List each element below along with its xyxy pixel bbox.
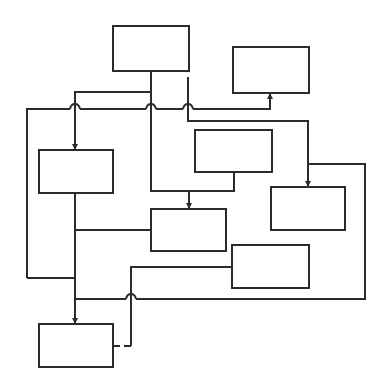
- box-top-right: [233, 47, 309, 93]
- block-rect: [113, 26, 189, 71]
- block-rect: [232, 245, 309, 288]
- block-rect: [39, 150, 113, 193]
- box-right: [271, 187, 345, 230]
- connector-midright-to-center: [189, 172, 234, 209]
- block-rect: [195, 130, 272, 172]
- box-center: [151, 209, 226, 251]
- box-mid-right: [195, 130, 272, 172]
- boxes-layer: [39, 26, 345, 367]
- block-rect: [39, 324, 113, 367]
- box-lower-right: [232, 245, 309, 288]
- box-left: [39, 150, 113, 193]
- diagram-canvas: [0, 0, 391, 386]
- connector-lowerright-to-bottom: [131, 267, 232, 346]
- box-bottom: [39, 324, 113, 367]
- connector-top-to-left: [75, 71, 151, 150]
- block-rect: [233, 47, 309, 93]
- block-rect: [151, 209, 226, 251]
- box-top: [113, 26, 189, 71]
- flow-diagram: [0, 0, 391, 386]
- block-rect: [271, 187, 345, 230]
